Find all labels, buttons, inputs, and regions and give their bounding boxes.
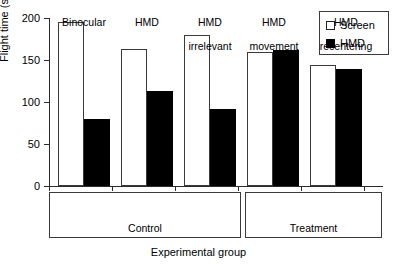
y-axis-title: Flight time (s): [0, 0, 10, 62]
bar-screen-hmd-recentering: [310, 65, 336, 186]
category-label-hmd-irrelevant-line2: irrelevant: [176, 40, 244, 52]
category-label-hmd-movement: HMD movement: [239, 4, 309, 64]
category-label-binocular: Binocular: [50, 4, 118, 40]
bar-hmd-hmd-recentering: [336, 69, 362, 186]
x-axis-title: Experimental group: [0, 246, 397, 258]
category-label-hmd-line1: HMD: [113, 16, 181, 28]
bar-hmd-binocular: [84, 119, 110, 186]
y-tick-label-150: 150: [22, 55, 40, 66]
category-label-hmd-irrelevant-line1: HMD: [176, 16, 244, 28]
bar-screen-binocular: [58, 22, 84, 186]
x-tick-5: [364, 186, 365, 191]
x-tick-3: [49, 186, 50, 191]
group-label-control: Control: [50, 222, 240, 234]
category-label-hmd-movement-line2: movement: [239, 40, 309, 52]
bar-hmd-hmd-movement: [273, 50, 299, 186]
group-box-control: Control: [49, 192, 241, 238]
y-tick-label-50: 50: [28, 139, 40, 150]
bar-hmd-hmd: [147, 91, 173, 186]
category-label-binocular-line1: Binocular: [50, 16, 118, 28]
x-axis-line: [49, 186, 383, 187]
category-label-hmd-irrelevant: HMD irrelevant: [176, 4, 244, 64]
x-tick-3b: [238, 186, 239, 191]
category-label-hmd-movement-line1: HMD: [239, 16, 309, 28]
group-label-treatment: Treatment: [246, 222, 381, 234]
y-tick-label-100: 100: [22, 97, 40, 108]
group-box-treatment: Treatment: [245, 192, 382, 238]
category-label-hmd: HMD: [113, 4, 181, 40]
x-tick-2: [175, 186, 176, 191]
y-tick-label-0: 0: [34, 181, 40, 192]
category-label-hmd-recentering: HMD recentering: [309, 4, 383, 64]
bar-hmd-hmd-irrelevant: [210, 109, 236, 186]
bar-screen-hmd: [121, 49, 147, 186]
category-label-hmd-recentering-line2: recentering: [309, 40, 383, 52]
bar-chart-figure: Flight time (s) 0 50 100 150 200: [0, 0, 397, 270]
bar-screen-hmd-movement: [247, 52, 273, 186]
category-label-hmd-recentering-line1: HMD: [309, 16, 383, 28]
x-tick-4: [301, 186, 302, 191]
x-tick-1: [112, 186, 113, 191]
y-tick-label-200: 200: [22, 13, 40, 24]
